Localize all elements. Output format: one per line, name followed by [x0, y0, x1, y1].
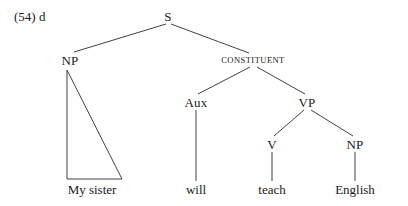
tree-terminal-my-sister: My sister [68, 183, 117, 196]
example-number-label: (54) d [14, 10, 45, 23]
tree-edge-vp-to-np2 [311, 110, 353, 136]
tree-edge-constituent-to-aux [198, 67, 250, 94]
tree-node-s: S [164, 10, 171, 23]
tree-terminal-will: will [186, 183, 206, 196]
tree-node-np1: NP [61, 54, 78, 67]
tree-edge-constituent-to-vp [257, 67, 305, 94]
tree-node-aux: Aux [185, 96, 208, 109]
tree-terminal-english: English [335, 183, 375, 196]
tree-node-v: V [267, 138, 277, 151]
tree-edge-s-to-np1 [74, 24, 166, 52]
tree-terminal-teach: teach [258, 183, 285, 196]
tree-node-constituent: CONSTITUENT [221, 56, 285, 65]
tree-triangles-group [67, 70, 122, 179]
tree-node-vp: VP [298, 96, 315, 109]
tree-edge-vp-to-v [274, 110, 304, 136]
tree-node-np2: NP [346, 138, 363, 151]
tree-edge-s-to-constituent [171, 24, 249, 53]
syntax-tree-figure: (54) d SNPCONSTITUENTAuxVPVNP My sisterw… [0, 0, 408, 206]
constituent-triangle-np1 [67, 70, 122, 179]
